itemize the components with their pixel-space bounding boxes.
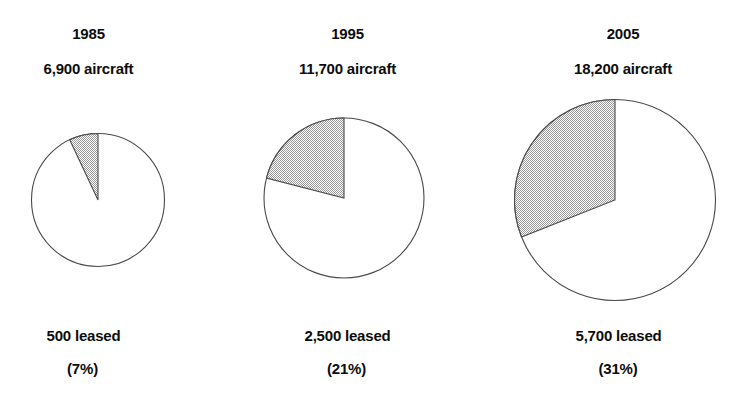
pie-chart-figure: 1985 6,900 aircraft 500 leased (7%) 1995…: [0, 0, 741, 399]
panel-3-leased-label: 5,700 leased: [488, 328, 741, 343]
pie-panel-2005: 2005 18,200 aircraft 5,700 leased (31%): [488, 0, 741, 399]
panel-3-percent-label: (31%): [488, 361, 741, 376]
